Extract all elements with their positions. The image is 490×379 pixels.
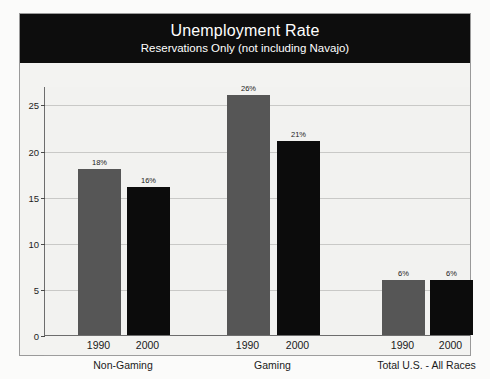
x-axis-year-label: 1990 bbox=[391, 339, 414, 351]
bar-value-label: 21% bbox=[291, 130, 306, 139]
y-axis-tick-label: 10 bbox=[28, 238, 39, 249]
bar: 18% bbox=[78, 169, 121, 335]
y-axis-tick-label: 20 bbox=[28, 146, 39, 157]
bar: 6% bbox=[382, 280, 425, 335]
x-axis-year-label: 2000 bbox=[286, 339, 309, 351]
x-axis-group-label: Non-Gaming bbox=[93, 359, 153, 371]
chart-title-banner: Unemployment Rate Reservations Only (not… bbox=[20, 14, 470, 63]
x-axis-year-label: 2000 bbox=[439, 339, 462, 351]
bar-value-label: 6% bbox=[398, 269, 409, 278]
plot-container: 051015202518%16%26%21%6%6% 1990200019902… bbox=[20, 63, 470, 355]
bar: 26% bbox=[227, 95, 270, 335]
bar: 21% bbox=[277, 141, 320, 335]
x-axis-year-label: 2000 bbox=[136, 339, 159, 351]
y-axis-tick-mark bbox=[41, 198, 45, 199]
y-axis-tick-label: 25 bbox=[28, 100, 39, 111]
y-axis-tick-mark bbox=[41, 336, 45, 337]
bar-value-label: 6% bbox=[446, 269, 457, 278]
chart-subtitle: Reservations Only (not including Navajo) bbox=[141, 42, 349, 54]
bar: 6% bbox=[430, 280, 473, 335]
category-axis-separator bbox=[44, 355, 470, 356]
y-axis-tick-mark bbox=[41, 105, 45, 106]
y-axis-tick-label: 15 bbox=[28, 192, 39, 203]
bar-value-label: 26% bbox=[241, 84, 256, 93]
bar: 16% bbox=[127, 187, 170, 335]
y-axis-tick-mark bbox=[41, 152, 45, 153]
x-axis-year-label: 1990 bbox=[87, 339, 110, 351]
bar-value-label: 16% bbox=[141, 176, 156, 185]
x-axis-year-label: 1990 bbox=[236, 339, 259, 351]
chart-title: Unemployment Rate bbox=[170, 23, 319, 40]
plot-area: 051015202518%16%26%21%6%6% bbox=[44, 87, 470, 336]
bar-value-label: 18% bbox=[92, 158, 107, 167]
y-axis-tick-mark bbox=[41, 290, 45, 291]
y-axis-tick-label: 5 bbox=[34, 284, 39, 295]
y-axis-tick-mark bbox=[41, 244, 45, 245]
x-axis-group-label: Gaming bbox=[254, 359, 291, 371]
chart-frame: Unemployment Rate Reservations Only (not… bbox=[19, 13, 471, 356]
x-axis-group-label: Total U.S. - All Races bbox=[377, 359, 476, 371]
y-axis-tick-label: 0 bbox=[34, 331, 39, 342]
